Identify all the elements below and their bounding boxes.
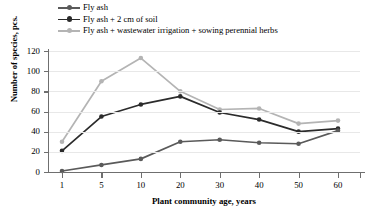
x-axis-title: Plant community age, years bbox=[42, 196, 366, 206]
data-point bbox=[257, 117, 262, 122]
y-tick-label: 0 bbox=[12, 168, 40, 177]
data-point bbox=[296, 141, 301, 146]
series-0 bbox=[60, 128, 341, 173]
y-tick-mark bbox=[44, 152, 49, 153]
plot-area bbox=[48, 51, 360, 172]
legend-label-fly-ash-soil: Fly ash + 2 cm of soil bbox=[83, 14, 158, 25]
chart-legend: Fly ash Fly ash + 2 cm of soil Fly ash +… bbox=[58, 2, 358, 37]
line-chart: Fly ash Fly ash + 2 cm of soil Fly ash +… bbox=[0, 0, 368, 216]
gridline bbox=[48, 71, 360, 72]
data-point bbox=[139, 102, 144, 107]
legend-line-marker-icon bbox=[58, 2, 80, 13]
y-axis-title: Number of species, pcs. bbox=[9, 0, 19, 119]
y-tick-mark bbox=[44, 172, 49, 173]
y-tick-label: 120 bbox=[12, 47, 40, 56]
y-tick-mark bbox=[44, 91, 49, 92]
y-tick-mark bbox=[44, 51, 49, 52]
x-tick-label: 40 bbox=[244, 180, 274, 190]
data-point bbox=[60, 139, 65, 144]
x-tick-mark bbox=[101, 173, 102, 178]
x-tick-mark bbox=[299, 173, 300, 178]
legend-item-fly-ash-wastewater[interactable]: Fly ash + wastewater irrigation + sowing… bbox=[58, 25, 358, 37]
data-point bbox=[139, 56, 144, 61]
x-tick-mark bbox=[338, 173, 339, 178]
gridline bbox=[48, 132, 360, 133]
data-point bbox=[178, 139, 183, 144]
y-tick-label: 80 bbox=[12, 87, 40, 96]
x-tick-label: 50 bbox=[284, 180, 314, 190]
x-tick-mark-end bbox=[360, 173, 361, 178]
legend-line-marker-icon bbox=[58, 14, 80, 25]
x-tick-mark bbox=[62, 173, 63, 178]
x-tick-label: 5 bbox=[86, 180, 116, 190]
legend-item-fly-ash[interactable]: Fly ash bbox=[58, 2, 358, 14]
data-point bbox=[257, 140, 262, 145]
x-tick-label: 30 bbox=[205, 180, 235, 190]
y-tick-mark bbox=[44, 112, 49, 113]
legend-circle-marker-icon bbox=[67, 16, 72, 21]
gridline bbox=[48, 112, 360, 113]
x-tick-mark bbox=[220, 173, 221, 178]
x-tick-label: 60 bbox=[323, 180, 353, 190]
data-point bbox=[139, 157, 144, 162]
data-point bbox=[178, 94, 183, 99]
y-tick-label: 20 bbox=[12, 147, 40, 156]
data-point bbox=[257, 106, 262, 111]
legend-circle-marker-icon bbox=[67, 28, 72, 33]
y-tick-label: 100 bbox=[12, 67, 40, 76]
x-tick-label: 1 bbox=[47, 180, 77, 190]
y-tick-mark bbox=[44, 132, 49, 133]
x-tick-mark bbox=[141, 173, 142, 178]
y-tick-label: 40 bbox=[12, 127, 40, 136]
y-tick-mark bbox=[44, 71, 49, 72]
gridline bbox=[48, 152, 360, 153]
data-point bbox=[296, 121, 301, 126]
y-tick-label: 60 bbox=[12, 107, 40, 116]
data-point bbox=[99, 114, 104, 119]
legend-label-fly-ash: Fly ash bbox=[83, 2, 108, 13]
legend-line-marker-icon bbox=[58, 25, 80, 36]
data-point bbox=[336, 118, 341, 123]
gridline bbox=[48, 51, 360, 52]
x-tick-mark bbox=[180, 173, 181, 178]
data-point bbox=[217, 137, 222, 142]
x-tick-label: 10 bbox=[126, 180, 156, 190]
data-point bbox=[99, 79, 104, 84]
legend-label-fly-ash-wastewater: Fly ash + wastewater irrigation + sowing… bbox=[83, 25, 278, 36]
data-point bbox=[99, 163, 104, 168]
x-tick-mark bbox=[259, 173, 260, 178]
legend-circle-marker-icon bbox=[67, 5, 72, 10]
x-axis-line bbox=[48, 172, 365, 173]
x-tick-label: 20 bbox=[165, 180, 195, 190]
gridline bbox=[48, 91, 360, 92]
legend-item-fly-ash-soil[interactable]: Fly ash + 2 cm of soil bbox=[58, 14, 358, 26]
